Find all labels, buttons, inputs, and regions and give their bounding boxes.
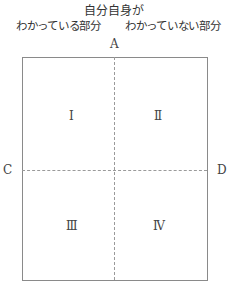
quadrant-1-label: Ⅰ: [69, 110, 74, 122]
quadrant-4-label: Ⅳ: [153, 220, 165, 232]
horizontal-divider-cd: [22, 170, 207, 171]
quadrant-frame: [22, 57, 208, 281]
quadrant-3-label: Ⅲ: [66, 220, 78, 232]
axis-label-a: A: [110, 38, 119, 50]
axis-label-c: C: [3, 164, 12, 176]
header-unknown-to-self: わかっていない部分: [125, 21, 220, 33]
axis-label-d: D: [217, 164, 227, 176]
vertical-divider-a: [114, 57, 115, 280]
header-known-to-self: わかっている部分: [16, 21, 101, 33]
diagram-title: 自分自身が: [0, 5, 227, 17]
quadrant-2-label: Ⅱ: [154, 110, 162, 122]
